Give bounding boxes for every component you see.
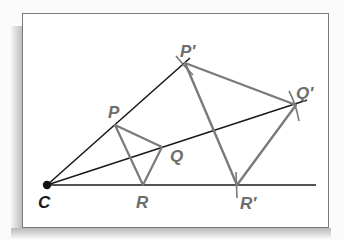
label-c: C	[38, 193, 51, 212]
center-point	[43, 181, 51, 189]
label-r-prime: R′	[240, 194, 257, 213]
dilation-diagram: C P Q R P′ Q′ R′	[0, 0, 344, 240]
label-q: Q	[170, 147, 183, 166]
label-r: R	[136, 193, 149, 212]
label-q-prime: Q′	[296, 84, 314, 103]
triangle-pqr-prime	[185, 63, 296, 185]
arc-r-prime	[236, 172, 237, 198]
label-p: P	[108, 103, 120, 122]
label-p-prime: P′	[180, 42, 196, 61]
